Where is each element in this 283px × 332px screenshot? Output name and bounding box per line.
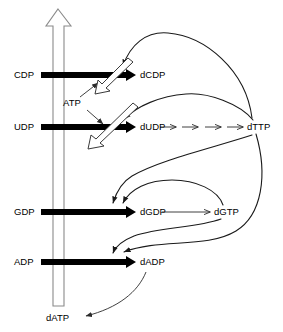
diagram-canvas: CDP UDP GDP ADP dCDP dUDP dGDP dADP dTTP… bbox=[0, 0, 283, 332]
regulation-dgtp-to-gdp bbox=[123, 180, 223, 205]
node-label-datp: dATP bbox=[46, 312, 69, 323]
node-label-gdp: GDP bbox=[14, 206, 35, 217]
regulation-dttp-to-gdp bbox=[113, 135, 252, 203]
regulation-atp-to-cdp bbox=[80, 83, 98, 97]
node-label-dttp: dTTP bbox=[247, 121, 270, 132]
pathway-diagram: CDP UDP GDP ADP dCDP dUDP dGDP dADP dTTP… bbox=[0, 0, 283, 332]
node-label-adp: ADP bbox=[14, 256, 34, 267]
regulation-atp-to-udp bbox=[87, 110, 103, 124]
reaction-dadp-to-datp bbox=[86, 272, 146, 316]
node-label-udp: UDP bbox=[14, 121, 34, 132]
regulation-dgtp-to-adp bbox=[113, 219, 221, 253]
node-label-dgdp: dGDP bbox=[140, 206, 166, 217]
node-label-atp: ATP bbox=[63, 97, 81, 108]
regulation-dttp-to-udp bbox=[124, 94, 253, 120]
node-label-dgtp: dGTP bbox=[214, 206, 239, 217]
node-label-cdp: CDP bbox=[14, 69, 34, 80]
node-label-dadp: dADP bbox=[140, 256, 165, 267]
regulation-dttp-to-adp bbox=[124, 134, 262, 252]
node-label-dcdp: dCDP bbox=[140, 69, 165, 80]
node-label-dudp: dUDP bbox=[140, 121, 165, 132]
